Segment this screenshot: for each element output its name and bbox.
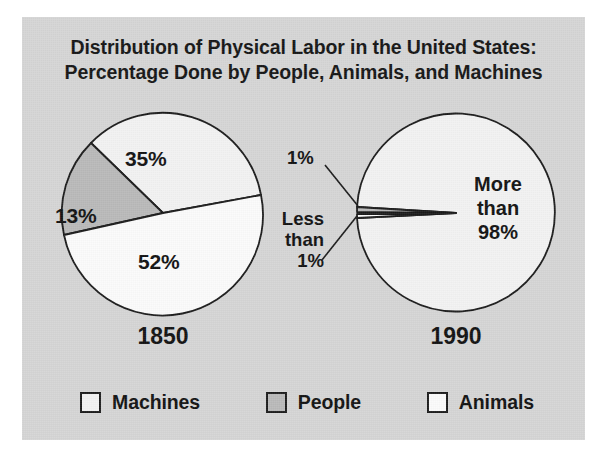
chart-legend: Machines People Animals (62, 380, 552, 424)
plot-area: 35% 13% 52% More than 98% 1% Less than 1… (22, 17, 585, 440)
pie-label-1990-machines-line-1: More (474, 173, 522, 195)
pie-callout-1990-people: 1% (287, 147, 314, 168)
figure-panel: Distribution of Physical Labor in the Un… (22, 17, 585, 440)
legend-swatch-machines (80, 392, 101, 413)
pie-label-1990-machines-line-2: than (477, 197, 519, 219)
pie-label-1850-people: 13% (55, 204, 96, 228)
pie-callout-1990-animals-line-2: than (285, 229, 324, 250)
pie-year-1990: 1990 (406, 323, 506, 350)
pie-callout-1990-animals-line-1: Less (282, 208, 324, 229)
pie-callout-1990-animals-line-3: 1% (297, 250, 324, 271)
leader-line-animals (322, 216, 357, 260)
legend-item-animals: Animals (427, 391, 534, 414)
legend-label-machines: Machines (112, 391, 200, 414)
legend-label-people: People (298, 391, 361, 414)
legend-label-animals: Animals (459, 391, 534, 414)
pie-label-1850-machines: 35% (125, 147, 166, 171)
pie-label-1990-machines: More than 98% (452, 172, 544, 244)
legend-item-people: People (266, 391, 361, 414)
pie-label-1990-machines-line-3: 98% (478, 221, 518, 243)
pie-label-1850-animals: 52% (138, 250, 179, 274)
legend-swatch-animals (427, 392, 448, 413)
legend-item-machines: Machines (80, 391, 200, 414)
pie-callout-1990-animals: Less than 1% (272, 208, 324, 271)
leader-line-people (325, 165, 358, 206)
pie-year-1850: 1850 (113, 323, 213, 350)
legend-swatch-people (266, 392, 287, 413)
